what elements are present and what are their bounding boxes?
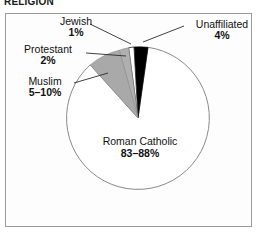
slice-label-muslim: Muslim 5–10% [14,76,76,98]
slice-label-jewish: Jewish 1% [52,16,100,38]
slice-label-jewish-value: 1% [52,27,100,38]
slice-label-unaffiliated: Unaffiliated 4% [186,19,258,41]
leader-line-unaffiliated [143,26,184,42]
slice-label-protestant: Protestant 2% [12,44,84,66]
chart-figure: RELIGION Jewish 1% Protestant 2% Muslim … [0,0,259,240]
slice-label-muslim-value: 5–10% [14,87,76,98]
slice-label-roman-catholic-value: 83–88% [86,147,194,159]
slice-label-protestant-value: 2% [12,55,84,66]
slice-label-roman-catholic: Roman Catholic 83–88% [86,135,194,159]
slice-label-roman-catholic-name: Roman Catholic [86,135,194,147]
slice-label-unaffiliated-value: 4% [186,30,258,41]
